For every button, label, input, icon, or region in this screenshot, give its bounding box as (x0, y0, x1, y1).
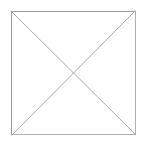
image-placeholder (0, 0, 147, 148)
placeholder-graphic (0, 0, 147, 148)
